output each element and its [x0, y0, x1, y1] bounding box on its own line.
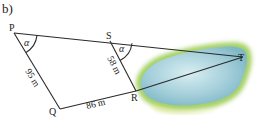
point-label-S: S [106, 30, 112, 41]
length-label-SR: 58 m [105, 54, 123, 76]
point-label-T: T [238, 52, 244, 63]
point-label-R: R [131, 92, 138, 103]
length-label-QR: 86 m [85, 97, 107, 111]
part-label: b) [2, 1, 13, 16]
length-label-PQ: 95 m [23, 67, 42, 89]
angle-label-P: α [24, 37, 30, 48]
point-label-P: P [9, 22, 15, 33]
lake [136, 42, 251, 113]
angle-label-S: α [119, 43, 125, 54]
point-label-Q: Q [49, 106, 57, 117]
line-PQ [14, 33, 60, 109]
diagram-canvas: b) P S T Q R α α 95 m 86 m 58 m [0, 0, 257, 125]
